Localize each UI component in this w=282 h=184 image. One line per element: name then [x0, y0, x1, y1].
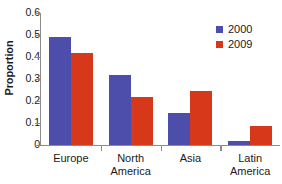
category-label-line1: Asia	[180, 152, 201, 164]
x-axis-category-label: LatinAmerica	[220, 152, 280, 178]
bar	[49, 37, 71, 145]
x-tick-mark	[101, 146, 102, 151]
legend-item: 2000	[216, 23, 252, 36]
category-label-line1: North	[117, 152, 144, 164]
bar-group	[41, 13, 101, 145]
bar	[71, 53, 93, 145]
category-label-line2: America	[101, 165, 161, 178]
legend-swatch-icon	[216, 41, 223, 48]
x-tick-mark	[220, 146, 221, 151]
bar	[168, 113, 190, 145]
legend-item: 2009	[216, 38, 252, 51]
category-label-line1: Latin	[238, 152, 262, 164]
bar-group	[161, 13, 221, 145]
bar	[190, 91, 212, 145]
bar	[131, 97, 153, 145]
legend-label: 2000	[228, 24, 252, 35]
legend-swatch-icon	[216, 26, 223, 33]
x-axis-category-label: Europe	[41, 152, 101, 165]
bar-group	[101, 13, 161, 145]
bar	[250, 126, 272, 145]
legend-label: 2009	[228, 39, 252, 50]
legend: 20002009	[216, 23, 252, 53]
x-axis-category-label: NorthAmerica	[101, 152, 161, 178]
category-label-line2: America	[220, 165, 280, 178]
x-axis-category-label: Asia	[161, 152, 221, 165]
bar-chart: Proportion 00.10.20.30.40.50.6 EuropeNor…	[0, 0, 282, 184]
x-tick-mark	[161, 146, 162, 151]
category-label-line1: Europe	[53, 152, 88, 164]
bar	[228, 141, 250, 145]
bar	[109, 75, 131, 145]
